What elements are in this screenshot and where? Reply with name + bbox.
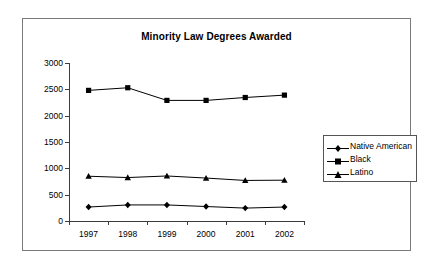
y-axis-tick (65, 89, 69, 90)
x-axis-tick-label: 2002 (275, 229, 294, 239)
data-point[interactable] (203, 98, 208, 103)
series-line-latino (89, 176, 285, 180)
chart-title: Minority Law Degrees Awarded (23, 31, 410, 42)
y-axis-tick-label: 0 (58, 216, 63, 226)
x-axis-tick (187, 221, 188, 225)
square-marker-icon (327, 153, 349, 164)
legend-item[interactable]: Native American (327, 139, 412, 152)
x-axis-tick-label: 2001 (236, 229, 255, 239)
y-axis-tick-label: 3000 (44, 58, 63, 68)
x-axis-tick (69, 221, 70, 225)
y-axis-tick (65, 63, 69, 64)
x-axis-tick-label: 2000 (197, 229, 216, 239)
data-point[interactable] (86, 204, 92, 210)
legend-label-black: Black (349, 154, 371, 164)
x-axis-tick (265, 221, 266, 225)
legend-label-latino: Latino (349, 167, 373, 177)
legend-item[interactable]: Latino (327, 165, 412, 178)
data-point[interactable] (164, 98, 169, 103)
y-axis-tick-label: 2000 (44, 111, 63, 121)
chart-legend: Native American Black Latino (323, 135, 417, 182)
y-axis-tick (65, 195, 69, 196)
y-axis-tick (65, 168, 69, 169)
x-axis-tick-label: 1999 (157, 229, 176, 239)
y-axis-tick-label: 2500 (44, 84, 63, 94)
x-axis-tick (108, 221, 109, 225)
data-point[interactable] (125, 85, 130, 90)
series-line-native-american (89, 205, 285, 208)
chart-frame: Minority Law Degrees Awarded 05001000150… (22, 18, 411, 251)
legend-label-native-american: Native American (349, 141, 412, 151)
y-axis-tick-label: 1000 (44, 163, 63, 173)
plot-area: 0500100015002000250030001997199819992000… (69, 63, 304, 221)
triangle-marker-icon (327, 166, 349, 177)
data-point[interactable] (125, 202, 131, 208)
data-point[interactable] (242, 205, 248, 211)
data-point[interactable] (203, 203, 209, 209)
x-axis-tick-label: 1997 (79, 229, 98, 239)
data-point[interactable] (282, 93, 287, 98)
y-axis-tick-label: 500 (49, 190, 63, 200)
data-point[interactable] (281, 204, 287, 210)
data-point[interactable] (86, 88, 91, 93)
x-axis-tick (147, 221, 148, 225)
y-axis-tick-label: 1500 (44, 137, 63, 147)
legend-item[interactable]: Black (327, 152, 412, 165)
diamond-marker-icon (327, 140, 349, 151)
x-axis-tick (304, 221, 305, 225)
series-lines (69, 63, 304, 221)
x-axis-tick-label: 1998 (118, 229, 137, 239)
y-axis-tick (65, 142, 69, 143)
y-axis-tick (65, 116, 69, 117)
x-axis-tick (226, 221, 227, 225)
data-point[interactable] (243, 95, 248, 100)
series-line-black (89, 88, 285, 101)
data-point[interactable] (164, 202, 170, 208)
